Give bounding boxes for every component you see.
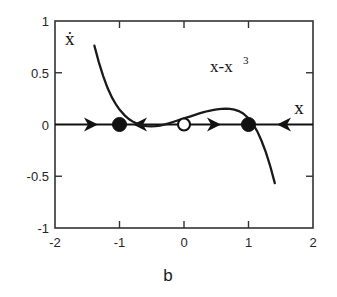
y-axis-label-text: ẋ (65, 28, 75, 49)
phase-portrait-figure: 1 0.5 0 -0.5 -1 -2 -1 0 1 2 (0, 0, 337, 297)
fixed-point-stable-neg1 (113, 118, 127, 132)
curve-label: x-x 3 (210, 54, 249, 76)
cubic-curve-x-minus-x-cubed (94, 46, 274, 183)
x-tick-label-1: 1 (245, 235, 252, 250)
x-tick-label-2: 2 (309, 235, 316, 250)
y-tick-label-0: 0 (42, 118, 49, 133)
x-tick-label-0: 0 (180, 235, 187, 250)
curve-label-base: x-x (210, 57, 233, 76)
y-tick-label-1: 1 (42, 14, 49, 29)
x-axis-label: x (294, 97, 304, 118)
x-tick-label-neg2: -2 (49, 235, 61, 250)
x-tick-label-neg1: -1 (114, 235, 126, 250)
y-axis-label: ẋ (65, 28, 75, 49)
fixed-point-unstable-0 (178, 119, 190, 131)
y-tick-label-0.5: 0.5 (31, 66, 49, 81)
phase-portrait-chart: 1 0.5 0 -0.5 -1 -2 -1 0 1 2 (0, 0, 337, 297)
fixed-point-stable-pos1 (242, 118, 256, 132)
y-tick-label-neg1: -1 (37, 221, 49, 236)
y-tick-label-neg0.5: -0.5 (27, 169, 49, 184)
curve-label-exponent: 3 (243, 54, 249, 66)
figure-caption: b (163, 266, 172, 285)
